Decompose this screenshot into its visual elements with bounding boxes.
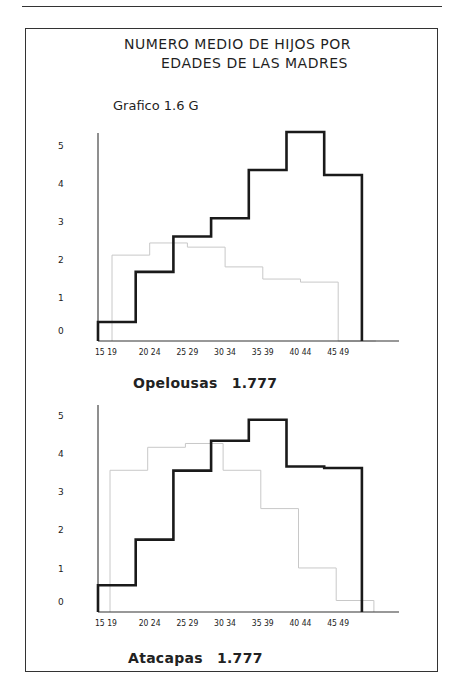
y-tick-label: 2 xyxy=(58,525,64,535)
x-tick-label: 45 49 xyxy=(327,618,349,628)
y-tick-label: 4 xyxy=(58,449,64,459)
x-tick-label: 25 29 xyxy=(176,618,198,628)
y-tick-label: 5 xyxy=(58,411,64,421)
chart-caption-atacapas: Atacapas1.777 xyxy=(128,650,263,666)
x-tick-label: 15 19 xyxy=(95,618,117,628)
primary-series-line xyxy=(98,420,362,612)
chart-caption-name: Atacapas xyxy=(128,650,203,666)
x-tick-label: 35 39 xyxy=(252,618,274,628)
y-tick-label: 1 xyxy=(58,564,64,574)
y-tick-label: 0 xyxy=(58,597,64,607)
x-tick-label: 30 34 xyxy=(214,618,236,628)
chart-caption-value: 1.777 xyxy=(217,650,263,666)
x-tick-label: 40 44 xyxy=(290,618,312,628)
x-tick-label: 20 24 xyxy=(139,618,161,628)
y-tick-label: 3 xyxy=(58,487,64,497)
chart-atacapas: 01234515 1920 2425 2930 3435 3940 4445 4… xyxy=(0,0,461,698)
